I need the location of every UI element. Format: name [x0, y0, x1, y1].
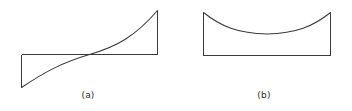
figure-panel-a: (a) — [0, 0, 176, 111]
panel-a-curve — [22, 11, 158, 88]
panel-b-caption: (b) — [176, 90, 352, 101]
figure-container: (a) (b) — [0, 0, 352, 111]
figure-panel-b: (b) — [176, 0, 352, 111]
panel-a-caption: (a) — [0, 90, 176, 101]
panel-b-curve — [204, 13, 331, 35]
